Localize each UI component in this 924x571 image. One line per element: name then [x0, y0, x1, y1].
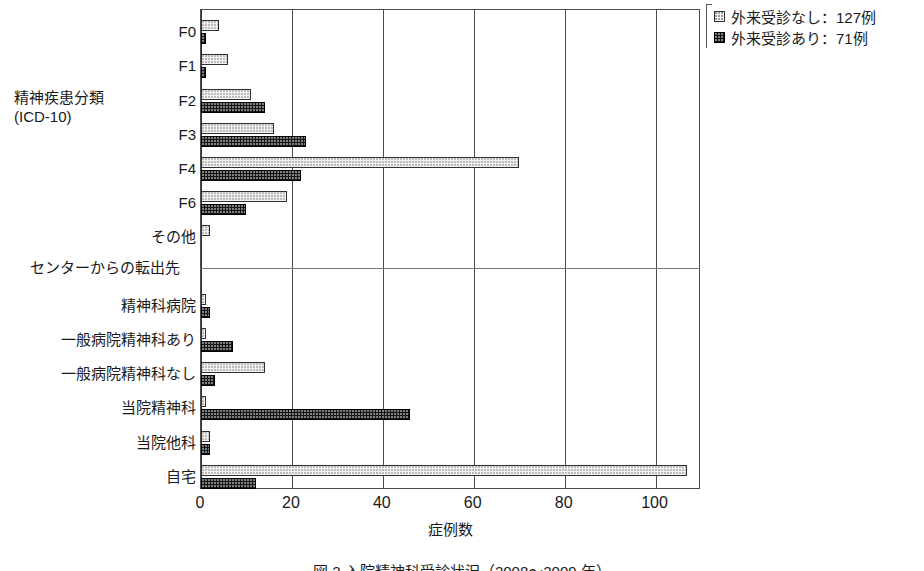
x-axis-title: 症例数 [200, 518, 700, 539]
legend-label-with-outpatient: 外来受診あり：71例 [731, 27, 868, 48]
y-label-3: F3 [178, 127, 196, 142]
gridline-60 [474, 10, 475, 488]
y-label-11: 当院他科 [136, 435, 196, 450]
figure-container: 精神疾患分類(ICD-10) センターからの転出先 F0F1F2F3F4F6その… [0, 0, 924, 571]
y-label-12: 自宅 [166, 469, 196, 484]
x-tick-0: 0 [196, 494, 205, 512]
legend-swatch-dark-icon [714, 32, 725, 43]
bar-dark-9 [201, 375, 215, 386]
bar-light-6 [201, 225, 210, 236]
y-label-4: F4 [178, 161, 196, 176]
bar-dark-11 [201, 444, 210, 455]
x-tick-60: 60 [464, 494, 482, 512]
y-label-5: F6 [178, 195, 196, 210]
bar-dark-2 [201, 102, 265, 113]
bar-light-0 [201, 20, 219, 31]
bar-dark-12 [201, 478, 256, 489]
legend-swatch-light-icon [714, 11, 725, 22]
y-label-0: F0 [178, 24, 196, 39]
bar-dark-5 [201, 204, 246, 215]
y-label-8: 一般病院精神科あり [61, 332, 196, 347]
bar-light-5 [201, 191, 287, 202]
bar-light-11 [201, 431, 210, 442]
bar-light-8 [201, 328, 206, 339]
bar-light-10 [201, 396, 206, 407]
bar-light-1 [201, 54, 228, 65]
bar-light-2 [201, 89, 251, 100]
bar-dark-0 [201, 33, 206, 44]
x-tick-80: 80 [555, 494, 573, 512]
y-axis-labels: F0F1F2F3F4F6その他精神科病院一般病院精神科あり一般病院精神科なし当院… [0, 0, 196, 489]
y-label-6: その他 [151, 229, 196, 244]
y-label-10: 当院精神科 [121, 400, 196, 415]
gridline-100 [656, 10, 657, 488]
y-label-1: F1 [178, 58, 196, 73]
bar-dark-4 [201, 170, 301, 181]
y-label-9: 一般病院精神科なし [61, 366, 196, 381]
legend-bracket [706, 4, 712, 48]
bar-dark-7 [201, 307, 210, 318]
x-axis-tick-labels: 020406080100 [200, 494, 700, 516]
y-label-7: 精神科病院 [121, 298, 196, 313]
legend-label-no-outpatient: 外来受診なし：127例 [731, 6, 876, 27]
group-separator-line [201, 268, 699, 269]
bar-dark-8 [201, 341, 233, 352]
legend-item-no-outpatient: 外来受診なし：127例 [714, 6, 876, 27]
gridline-80 [565, 10, 566, 488]
x-tick-40: 40 [373, 494, 391, 512]
y-label-2: F2 [178, 93, 196, 108]
plot-area [200, 9, 700, 489]
x-tick-20: 20 [282, 494, 300, 512]
figure-caption: 図 2 入院精神科受診状況（2008〜2009 年） [0, 560, 924, 571]
bar-dark-3 [201, 136, 306, 147]
bar-dark-1 [201, 67, 206, 78]
bar-light-12 [201, 465, 687, 476]
x-tick-100: 100 [641, 494, 668, 512]
bar-light-3 [201, 123, 274, 134]
bar-dark-10 [201, 409, 410, 420]
legend: 外来受診なし：127例 外来受診あり：71例 [714, 6, 876, 48]
bar-light-9 [201, 362, 265, 373]
bar-light-4 [201, 157, 519, 168]
legend-item-with-outpatient: 外来受診あり：71例 [714, 27, 876, 48]
bar-light-7 [201, 294, 206, 305]
